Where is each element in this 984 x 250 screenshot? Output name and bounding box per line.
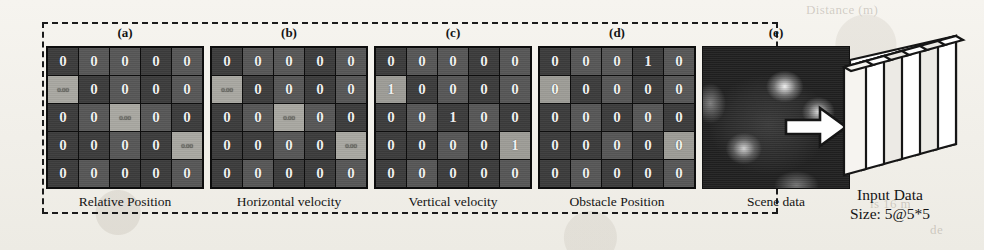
- grid-cell: 0: [633, 160, 663, 187]
- grid-cell: 0: [407, 76, 437, 103]
- grid-cell: 0: [48, 104, 78, 131]
- grid-cell: 0: [305, 160, 335, 187]
- grid-cell: 0.00: [172, 132, 202, 159]
- grid-cell: 0: [48, 48, 78, 75]
- grid-cell: 0: [110, 48, 140, 75]
- grid-cell: 0: [540, 104, 570, 131]
- grid-cell: 1: [438, 104, 468, 131]
- grid-cell: 0: [212, 132, 242, 159]
- panel-tag: (e): [769, 26, 783, 42]
- grid-cell: 0: [336, 48, 366, 75]
- panel-caption: Horizontal velocity: [237, 195, 342, 209]
- grid-cell: 0: [141, 160, 171, 187]
- grid-cell: 1: [633, 48, 663, 75]
- panel-tag: (c): [446, 26, 460, 42]
- grid-cell: 0: [172, 76, 202, 103]
- panel-caption: Vertical velocity: [409, 195, 498, 209]
- grid-cell: 0: [438, 76, 468, 103]
- grid-cell: 0: [469, 160, 499, 187]
- grid-cell: 0: [212, 48, 242, 75]
- grid-cell: 0: [274, 76, 304, 103]
- grid-cell: 0: [274, 48, 304, 75]
- grid-cell: 0: [243, 160, 273, 187]
- input-channel-panels: (a)000000.000000000.000000000.0000000Rel…: [46, 26, 774, 212]
- grid-cell: 0.00: [110, 104, 140, 131]
- grid-cell: 0: [540, 160, 570, 187]
- value-grid: 000000.000000000.000000000.0000000: [210, 46, 368, 189]
- grid-cell: 0: [172, 160, 202, 187]
- panel-obstacle-position: (d)0001000000000000000000000Obstacle Pos…: [538, 26, 696, 209]
- ghost-text-4: de: [930, 222, 943, 238]
- panel-vertical-velocity: (c)0000010000001000000100000Vertical vel…: [374, 26, 532, 209]
- panel-caption: Relative Position: [79, 195, 172, 209]
- grid-cell: 0: [664, 104, 694, 131]
- grid-cell: 0: [407, 104, 437, 131]
- grid-cell: 0: [110, 160, 140, 187]
- grid-cell: 0: [602, 104, 632, 131]
- grid-cell: 0.00: [274, 104, 304, 131]
- grid-cell: 0: [336, 104, 366, 131]
- grid-cell: 0: [141, 104, 171, 131]
- grid-cell: 0: [438, 48, 468, 75]
- grid-cell: 0: [469, 48, 499, 75]
- grid-cell: 0: [500, 76, 530, 103]
- grid-cell: 0: [571, 48, 601, 75]
- grid-cell: 0: [79, 104, 109, 131]
- grid-cell: 0: [571, 104, 601, 131]
- grid-cell: 0: [212, 104, 242, 131]
- grid-cell: 0: [500, 160, 530, 187]
- grid-cell: 0: [571, 76, 601, 103]
- grid-cell: 0: [602, 48, 632, 75]
- grid-cell: 0: [664, 48, 694, 75]
- grid-cell: 0: [336, 160, 366, 187]
- grid-cell: 0: [469, 76, 499, 103]
- grid-cell: 0: [602, 132, 632, 159]
- grid-cell: 0: [664, 76, 694, 103]
- grid-cell: 0: [376, 48, 406, 75]
- grid-cell: 0: [469, 132, 499, 159]
- grid-cell: 0: [79, 132, 109, 159]
- grid-cell: 0: [540, 76, 570, 103]
- grid-cell: 0: [500, 104, 530, 131]
- grid-cell: 0: [438, 160, 468, 187]
- grid-cell: 1: [376, 76, 406, 103]
- panel-horizontal-velocity: (b)000000.000000000.000000000.0000000Hor…: [210, 26, 368, 209]
- grid-cell: 0: [172, 104, 202, 131]
- grid-cell: 0: [633, 76, 663, 103]
- grid-cell: 0: [172, 48, 202, 75]
- value-grid: 0001000000000000000000000: [538, 46, 696, 189]
- panel-relative-position: (a)000000.000000000.000000000.0000000Rel…: [46, 26, 204, 209]
- grid-cell: 0: [79, 48, 109, 75]
- grid-cell: 0.00: [336, 132, 366, 159]
- grid-cell: 0.00: [212, 76, 242, 103]
- grid-cell: 0: [48, 132, 78, 159]
- grid-cell: 0: [141, 76, 171, 103]
- grid-cell: 0: [540, 132, 570, 159]
- grid-cell: 0: [305, 48, 335, 75]
- grid-cell: 0: [305, 104, 335, 131]
- value-grid: 0000010000001000000100000: [374, 46, 532, 189]
- grid-cell: 0: [602, 76, 632, 103]
- panel-caption: Obstacle Position: [570, 195, 665, 209]
- grid-cell: 0: [407, 48, 437, 75]
- grid-cell: 0: [664, 160, 694, 187]
- grid-cell: 0: [469, 104, 499, 131]
- grid-cell: 0: [438, 132, 468, 159]
- grid-cell: 0: [48, 160, 78, 187]
- grid-cell: 0: [336, 76, 366, 103]
- grid-cell: 0.00: [48, 76, 78, 103]
- grid-cell: 0: [376, 104, 406, 131]
- grid-cell: 0: [407, 132, 437, 159]
- grid-cell: 0: [243, 48, 273, 75]
- input-data-title: Input Data: [806, 186, 974, 205]
- grid-cell: 0: [79, 76, 109, 103]
- grid-cell: 0: [633, 104, 663, 131]
- grid-cell: 0: [305, 132, 335, 159]
- grid-cell: 0: [274, 132, 304, 159]
- panel-tag: (a): [117, 26, 132, 42]
- input-data-label: Input Data Size: 5@5*5: [806, 186, 974, 224]
- grid-cell: 0: [141, 48, 171, 75]
- grid-cell: 0: [243, 132, 273, 159]
- grid-cell: 0: [664, 132, 694, 159]
- grid-cell: 0: [407, 160, 437, 187]
